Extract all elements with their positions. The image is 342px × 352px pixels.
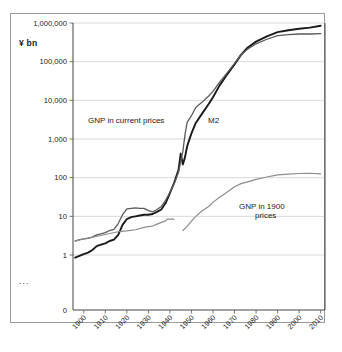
x-tick-label: 1920 xyxy=(113,313,131,331)
series-label: GNP in 1900 xyxy=(239,202,285,211)
x-tick-label: 1950 xyxy=(178,313,196,331)
y-tick-label: 100 xyxy=(54,173,67,182)
series-annotations: GNP in current pricesM2GNP in 1900prices xyxy=(88,116,285,220)
x-tick-label: 1960 xyxy=(199,313,217,331)
gridlines xyxy=(73,23,325,255)
y-tick-label: 1 xyxy=(63,251,67,260)
x-tick-label: 1910 xyxy=(92,313,110,331)
y-tick-label: 100,000 xyxy=(40,57,67,66)
y-axis xyxy=(70,23,74,310)
chart-canvas: 1101001,00010,000100,0001,000,0000 19001… xyxy=(0,0,342,352)
data-series xyxy=(75,26,321,258)
y-tick-label: 1,000,000 xyxy=(33,19,67,28)
y-tick-labels: 1101001,00010,000100,0001,000,0000 xyxy=(33,19,67,315)
x-tick-label: 1900 xyxy=(70,313,88,331)
x-tick-label: 1970 xyxy=(221,313,239,331)
x-tick-label: 1930 xyxy=(135,313,153,331)
series-line-m2 xyxy=(75,26,321,258)
y-tick-label: 1,000 xyxy=(48,135,67,144)
y-tick-label-zero: 0 xyxy=(63,306,67,315)
x-tick-label: 1990 xyxy=(264,313,282,331)
series-label: M2 xyxy=(208,116,220,125)
x-tick-labels: 1900191019201930194019501960197019801990… xyxy=(70,313,325,331)
x-tick-label: 1940 xyxy=(156,313,174,331)
chart-figure: ¥ bn ... 1101001,00010,000100,0001,000,0… xyxy=(0,0,342,352)
x-tick-label: 2000 xyxy=(286,313,304,331)
x-axis xyxy=(73,23,325,314)
series-label: GNP in current prices xyxy=(88,116,164,125)
y-tick-label: 10 xyxy=(59,212,67,221)
x-tick-label: 2010 xyxy=(307,313,325,331)
series-label: prices xyxy=(255,211,276,220)
y-tick-label: 10,000 xyxy=(44,96,67,105)
x-tick-label: 1980 xyxy=(242,313,260,331)
